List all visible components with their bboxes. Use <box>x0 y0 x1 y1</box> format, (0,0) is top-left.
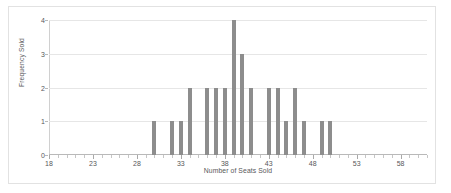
x-tick-mark <box>93 155 94 159</box>
x-tick-mark <box>295 155 296 158</box>
gridline <box>49 54 427 55</box>
y-tick-mark <box>45 54 48 55</box>
bar <box>320 121 324 155</box>
x-tick-mark <box>374 155 375 158</box>
x-tick-mark <box>383 155 384 158</box>
x-tick-mark <box>111 155 112 158</box>
x-tick-mark <box>251 155 252 158</box>
x-tick-mark <box>313 155 314 159</box>
x-tick-mark <box>225 155 226 159</box>
x-tick-mark <box>365 155 366 158</box>
bar <box>179 121 183 155</box>
gridline <box>49 20 427 21</box>
bar <box>267 88 271 156</box>
y-tick-label: 2 <box>25 84 45 91</box>
x-tick-mark <box>348 155 349 158</box>
x-tick-mark <box>242 155 243 158</box>
plot-wrapper: Frequency Sold 01234 182328333843485358 … <box>9 7 435 183</box>
x-tick-label: 48 <box>301 160 325 167</box>
y-tick-label: 0 <box>25 152 45 159</box>
x-tick-mark <box>427 155 428 158</box>
x-tick-mark <box>339 155 340 158</box>
x-tick-mark <box>330 155 331 158</box>
x-tick-mark <box>278 155 279 158</box>
bar <box>188 88 192 156</box>
x-tick-mark <box>198 155 199 158</box>
plot-area <box>49 20 427 155</box>
x-tick-mark <box>322 155 323 158</box>
x-tick-mark <box>49 155 50 159</box>
x-tick-mark <box>181 155 182 159</box>
bar <box>302 121 306 155</box>
bar <box>328 121 332 155</box>
x-tick-mark <box>286 155 287 158</box>
x-tick-mark <box>102 155 103 158</box>
x-tick-label: 58 <box>389 160 413 167</box>
x-tick-mark <box>401 155 402 159</box>
y-tick-mark <box>45 155 48 156</box>
x-tick-label: 38 <box>213 160 237 167</box>
x-tick-mark <box>418 155 419 158</box>
x-axis-title: Number of Seats Sold <box>49 167 427 174</box>
bar <box>223 88 227 156</box>
x-tick-mark <box>234 155 235 158</box>
x-tick-label: 28 <box>125 160 149 167</box>
x-tick-mark <box>304 155 305 158</box>
bar <box>214 88 218 156</box>
x-tick-mark <box>84 155 85 158</box>
y-tick-mark <box>45 20 48 21</box>
bar <box>205 88 209 156</box>
bar <box>240 54 244 155</box>
bar <box>152 121 156 155</box>
y-tick-mark <box>45 121 48 122</box>
y-tick-label: 1 <box>25 118 45 125</box>
x-tick-label: 18 <box>37 160 61 167</box>
x-tick-label: 23 <box>81 160 105 167</box>
x-tick-mark <box>119 155 120 158</box>
bar <box>232 20 236 155</box>
x-tick-mark <box>128 155 129 158</box>
x-tick-mark <box>357 155 358 159</box>
y-tick-label: 4 <box>25 17 45 24</box>
x-tick-mark <box>260 155 261 158</box>
x-tick-mark <box>190 155 191 158</box>
bar <box>293 88 297 156</box>
y-tick-label: 3 <box>25 50 45 57</box>
x-tick-mark <box>207 155 208 158</box>
gridline <box>49 121 427 122</box>
y-axis-ticks: 01234 <box>23 20 45 155</box>
x-tick-mark <box>163 155 164 158</box>
x-tick-mark <box>172 155 173 158</box>
x-tick-mark <box>75 155 76 158</box>
x-tick-mark <box>154 155 155 158</box>
x-tick-mark <box>409 155 410 158</box>
x-tick-mark <box>392 155 393 158</box>
chart-container: Frequency Sold 01234 182328333843485358 … <box>8 6 436 184</box>
bar <box>284 121 288 155</box>
x-tick-mark <box>137 155 138 159</box>
gridline <box>49 88 427 89</box>
bar <box>249 88 253 156</box>
x-tick-label: 53 <box>345 160 369 167</box>
x-tick-mark <box>146 155 147 158</box>
y-tick-mark <box>45 88 48 89</box>
x-tick-label: 33 <box>169 160 193 167</box>
x-tick-mark <box>216 155 217 158</box>
bar <box>276 88 280 156</box>
x-tick-mark <box>58 155 59 158</box>
bar <box>170 121 174 155</box>
x-tick-label: 43 <box>257 160 281 167</box>
x-tick-mark <box>67 155 68 158</box>
x-tick-mark <box>269 155 270 159</box>
